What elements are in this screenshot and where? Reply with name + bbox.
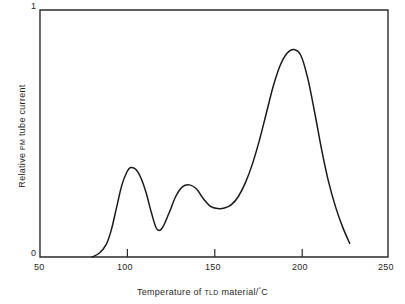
y-tick-label-0: 0 [31, 248, 36, 258]
x-tick-label-50: 50 [34, 262, 44, 272]
x-tick-marks [127, 249, 302, 257]
y-axis-title-trail: tube current [17, 84, 27, 136]
chart-figure: 1 0 50 100 150 200 250 Temperature of TL… [0, 0, 405, 304]
x-axis-title-acronym: TLD [204, 289, 218, 296]
y-tick-label-1: 1 [31, 1, 36, 11]
x-tick-label-200: 200 [292, 262, 308, 272]
y-axis-title-lead: Relative [17, 153, 27, 188]
x-tick-label-150: 150 [205, 262, 221, 272]
x-axis-title-lead: Temperature of [137, 287, 202, 297]
y-axis-title-acronym: PM [19, 139, 26, 150]
x-tick-label-100: 100 [117, 262, 133, 272]
x-tick-label-250: 250 [378, 262, 394, 272]
x-axis-title-trail: material/ [221, 287, 258, 297]
glow-curve-line [92, 49, 350, 257]
y-axis-title: Relative PM tube current [17, 36, 27, 236]
plot-frame [40, 10, 388, 257]
glow-curve-plot [0, 0, 405, 304]
frame-rect [40, 10, 388, 257]
x-axis-title: Temperature of TLD material/°C [0, 286, 405, 297]
x-axis-title-unit: C [261, 287, 268, 297]
